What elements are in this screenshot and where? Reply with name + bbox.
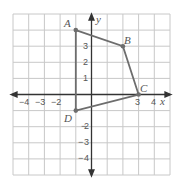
svg-text:4: 4 [151,97,156,107]
svg-text:−2: −2 [51,97,61,107]
label-d: D [63,112,72,124]
svg-text:−: − [78,153,83,163]
point-a [74,28,79,33]
svg-text:1: 1 [83,73,88,83]
y-axis-label: y [95,13,101,25]
label-a: A [63,17,71,29]
y-axis-arrow-up-icon [89,14,94,20]
svg-text:3: 3 [83,41,88,51]
y-tick-labels: 3 2 1 −2 −3 −4 [78,41,89,163]
svg-text:−3: −3 [35,97,45,107]
svg-text:3: 3 [84,137,89,147]
svg-text:4: 4 [84,153,89,163]
svg-text:−: − [78,137,83,147]
svg-text:3: 3 [135,97,140,107]
svg-text:2: 2 [83,57,88,67]
svg-text:2: 2 [84,121,89,131]
x-axis-arrow-left-icon [11,92,17,97]
svg-text:−4: −4 [19,97,29,107]
label-b: B [124,34,131,46]
point-d [74,108,79,113]
label-c: C [140,82,148,94]
x-axis-label: x [159,95,165,107]
axes [11,14,171,176]
x-tick-labels: −4 −3 −2 3 4 [19,97,156,107]
coordinate-plane: x y −4 −3 −2 3 4 3 2 1 −2 −3 −4 A B C D [0,0,174,179]
